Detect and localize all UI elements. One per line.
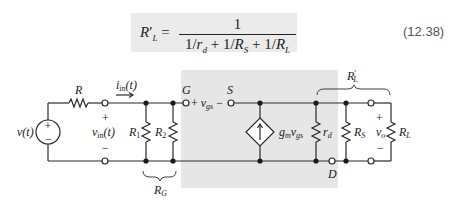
- source-plus: +: [45, 119, 52, 133]
- drain-terminal-icon: [329, 158, 335, 164]
- junction-dot: [343, 158, 348, 163]
- source-label: v(t): [17, 125, 34, 139]
- source-minus: −: [45, 132, 52, 146]
- resistor-rl-icon: [387, 122, 395, 142]
- source-terminal-icon: [228, 100, 234, 106]
- gate-label: G: [182, 83, 191, 97]
- vo-plus: +: [376, 111, 383, 125]
- series-resistor-label: R: [74, 83, 83, 97]
- junction-dot: [143, 158, 148, 163]
- input-current-label: iin(t): [116, 78, 137, 93]
- r1-label: R1: [128, 125, 140, 140]
- junction-dot: [257, 158, 262, 163]
- rl-label: RL: [398, 125, 411, 140]
- r2-label: R2: [154, 125, 166, 140]
- rs-label: RS: [353, 125, 365, 140]
- vo-label: vo: [376, 125, 385, 140]
- circuit-diagram: + − v(t) R iin(t) + vin(t) − R1 R2 RG G …: [0, 0, 458, 207]
- resistor-r2-icon: [169, 122, 177, 142]
- output-terminal-icon: [368, 158, 374, 164]
- junction-dot: [313, 100, 318, 105]
- junction-dot: [313, 158, 318, 163]
- vin-plus: +: [102, 111, 109, 125]
- drain-label: D: [327, 167, 337, 181]
- rl-prime-label: R′L: [346, 68, 358, 84]
- input-voltage-label: vin(t): [92, 125, 115, 140]
- resistor-rs-icon: [342, 122, 350, 142]
- output-terminal-icon: [368, 100, 374, 106]
- rg-label: RG: [153, 183, 167, 198]
- terminal-icon: [102, 100, 108, 106]
- gate-terminal-icon: [183, 100, 189, 106]
- source-terminal-label: S: [227, 83, 233, 97]
- resistor-r-icon: [69, 99, 88, 107]
- junction-dot: [143, 100, 148, 105]
- junction-dot: [170, 158, 175, 163]
- terminal-icon: [102, 158, 108, 164]
- junction-dot: [257, 100, 262, 105]
- junction-dot: [343, 100, 348, 105]
- rg-brace-icon: [143, 171, 176, 181]
- vin-minus: −: [102, 141, 109, 155]
- junction-dot: [170, 100, 175, 105]
- vo-minus: −: [377, 141, 384, 155]
- resistor-r1-icon: [142, 122, 150, 142]
